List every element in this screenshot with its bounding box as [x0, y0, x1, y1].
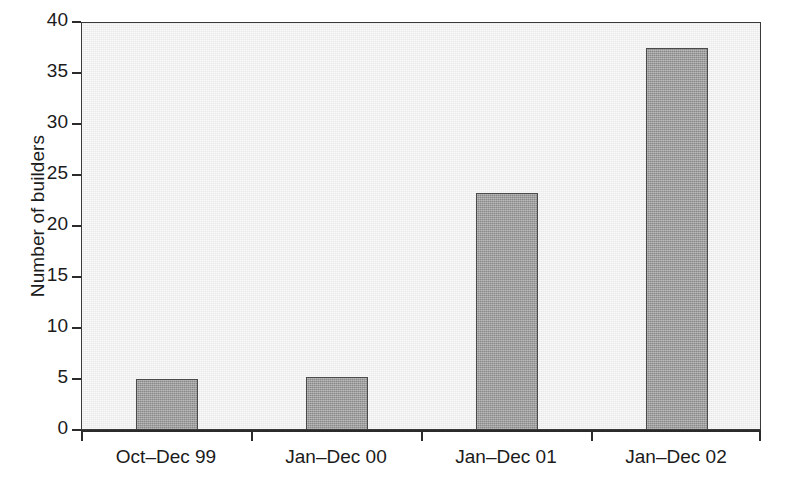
y-tick-mark — [72, 174, 81, 176]
y-tick-mark — [72, 276, 81, 278]
y-tick-label: 15 — [47, 264, 68, 286]
bar-2 — [476, 193, 538, 429]
y-tick-label: 10 — [47, 315, 68, 337]
y-tick-label: 0 — [57, 417, 68, 439]
y-tick-label: 5 — [57, 366, 68, 388]
x-tick-3 — [591, 430, 593, 441]
y-tick-mark — [72, 21, 81, 23]
y-tick-label: 40 — [47, 9, 68, 31]
x-axis-label-1: Jan–Dec 00 — [251, 446, 421, 468]
x-axis-label-0: Oct–Dec 99 — [81, 446, 251, 468]
bar-0 — [136, 379, 198, 429]
x-axis-label-3: Jan–Dec 02 — [591, 446, 761, 468]
x-tick-2 — [421, 430, 423, 441]
y-tick-mark — [72, 72, 81, 74]
y-tick-mark — [72, 327, 81, 329]
y-tick-mark — [72, 378, 81, 380]
x-axis-label-2: Jan–Dec 01 — [421, 446, 591, 468]
y-tick-mark — [72, 225, 81, 227]
y-axis-title: Number of builders — [27, 86, 49, 346]
y-tick-label: 30 — [47, 111, 68, 133]
y-tick-label: 35 — [47, 60, 68, 82]
x-tick-1 — [251, 430, 253, 441]
bar-1 — [306, 377, 368, 429]
plot-area — [81, 22, 761, 430]
y-tick-label: 20 — [47, 213, 68, 235]
y-tick-mark — [72, 123, 81, 125]
x-tick-4 — [759, 430, 761, 441]
x-tick-0 — [81, 430, 83, 441]
y-tick-mark — [72, 429, 81, 431]
y-tick-label: 25 — [47, 162, 68, 184]
bar-3 — [646, 48, 708, 429]
bar-chart: Number of builders 0510152025303540 Oct–… — [0, 0, 790, 491]
